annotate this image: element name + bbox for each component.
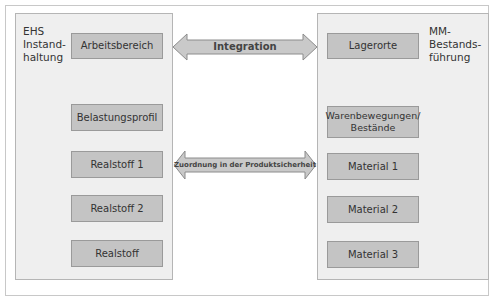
box-lagerorte: Lagerorte: [327, 33, 419, 59]
box-realstoff: Realstoff: [71, 240, 163, 267]
zuordnung-label: Zuordnung in der Produktsicherheit: [173, 159, 317, 171]
box-arbeitsbereich: Arbeitsbereich: [71, 33, 163, 59]
integration-label: Integration: [172, 40, 318, 54]
zuordnung-arrow: Zuordnung in der Produktsicherheit: [173, 150, 317, 180]
box-realstoff-2: Realstoff 2: [71, 195, 163, 222]
box-realstoff-1: Realstoff 1: [71, 151, 163, 178]
box-belastungsprofil: Belastungsprofil: [71, 104, 163, 131]
box-material-1: Material 1: [327, 153, 419, 180]
box-warenbewegungen-bestaende: Warenbewegungen/ Bestände: [327, 106, 419, 138]
box-material-3: Material 3: [327, 241, 419, 268]
mm-panel-title: MM- Bestands- führung: [429, 25, 481, 64]
box-material-2: Material 2: [327, 196, 419, 223]
ehs-panel-title: EHS Instand- haltung: [23, 25, 66, 64]
integration-arrow: Integration: [172, 33, 318, 61]
